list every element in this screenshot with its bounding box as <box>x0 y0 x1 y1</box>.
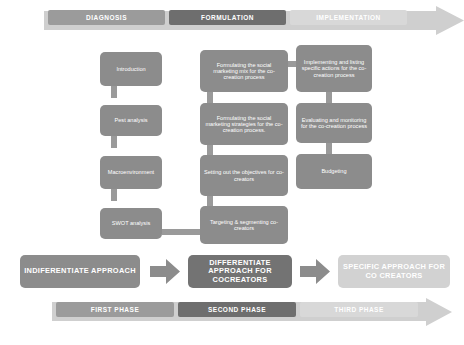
phase-segment-label: FIRST PHASE <box>91 306 139 313</box>
approach-box-specific[interactable]: SPECIFIC APPROACH FOR CO CREATORS <box>338 255 450 288</box>
stage-segment-label: DIAGNOSIS <box>86 14 127 21</box>
phase-segment-label: THIRD PHASE <box>334 306 384 313</box>
step-label: Implementing and listing specific action… <box>300 59 368 78</box>
approach-arrow-icon <box>150 258 180 285</box>
step-box-marketing-mix[interactable]: Formulating the social marketing mix for… <box>200 50 288 92</box>
diagram-canvas: DIAGNOSIS FORMULATION IMPLEMENTATION Int… <box>0 0 464 345</box>
connector-vertical <box>326 92 332 103</box>
step-label: Introduction <box>116 66 145 72</box>
stage-segment-implementation[interactable]: IMPLEMENTATION <box>290 10 407 25</box>
step-label: Evaluating and monitoring for the co-cre… <box>300 117 368 130</box>
step-label: Budgeting <box>321 168 346 174</box>
stage-segment-label: IMPLEMENTATION <box>316 14 381 21</box>
step-box-pest-analysis[interactable]: Pest analysis <box>100 105 162 136</box>
approach-label: SPECIFIC APPROACH FOR CO CREATORS <box>342 263 446 280</box>
approach-arrow-icon <box>300 258 330 285</box>
step-box-budgeting[interactable]: Budgeting <box>296 154 372 189</box>
connector-vertical <box>207 92 213 103</box>
connector-vertical <box>111 86 117 98</box>
phase-segment-first[interactable]: FIRST PHASE <box>56 302 174 317</box>
step-label: Macroenvironment <box>108 169 154 175</box>
step-box-targeting-segmenting[interactable]: Targeting & segmenting co-creators <box>200 206 288 244</box>
step-box-implementing-actions[interactable]: Implementing and listing specific action… <box>296 45 372 92</box>
connector-vertical <box>207 145 213 155</box>
connector-horizontal <box>162 229 200 235</box>
step-label: Setting out the objectives for co-creato… <box>204 169 284 182</box>
step-box-introduction[interactable]: Introduction <box>100 52 162 86</box>
phase-segment-label: SECOND PHASE <box>208 306 266 313</box>
step-box-macroenvironment[interactable]: Macroenvironment <box>100 156 162 189</box>
connector-vertical <box>111 136 117 148</box>
approach-box-differentiate[interactable]: DIFFERENTIATE APPROACH FOR COCREATORS <box>188 255 292 288</box>
stage-segment-label: FORMULATION <box>201 14 254 21</box>
approach-box-indifferentiate[interactable]: INDIFERENTIATE APPROACH <box>20 255 140 288</box>
step-box-evaluating-monitoring[interactable]: Evaluating and monitoring for the co-cre… <box>296 103 372 143</box>
step-label: SWOT analysis <box>112 220 150 226</box>
approach-label: DIFFERENTIATE APPROACH FOR COCREATORS <box>192 259 288 284</box>
phase-segment-second[interactable]: SECOND PHASE <box>178 302 296 317</box>
phase-segment-third[interactable]: THIRD PHASE <box>300 302 418 317</box>
stage-segment-formulation[interactable]: FORMULATION <box>169 10 286 25</box>
connector-vertical <box>111 189 117 201</box>
step-label: Pest analysis <box>115 117 148 123</box>
step-label: Formulating the social marketing strateg… <box>204 115 284 134</box>
connector-vertical <box>207 196 213 206</box>
step-label: Targeting & segmenting co-creators <box>204 219 284 232</box>
step-box-marketing-strategies[interactable]: Formulating the social marketing strateg… <box>200 103 288 145</box>
step-label: Formulating the social marketing mix for… <box>204 62 284 81</box>
step-box-objectives[interactable]: Setting out the objectives for co-creato… <box>200 155 288 196</box>
connector-vertical <box>326 143 332 154</box>
step-box-swot-analysis[interactable]: SWOT analysis <box>100 208 162 239</box>
approach-label: INDIFERENTIATE APPROACH <box>24 267 136 275</box>
stage-segment-diagnosis[interactable]: DIAGNOSIS <box>48 10 165 25</box>
